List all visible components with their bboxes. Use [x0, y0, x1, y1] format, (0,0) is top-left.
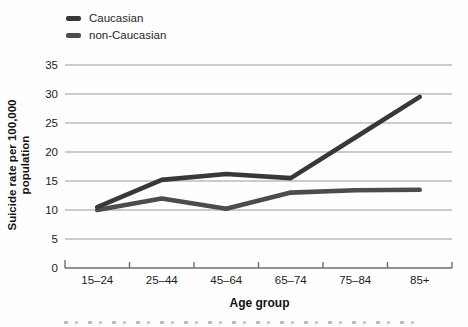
y-axis-title-line2: population [19, 85, 32, 245]
legend-label-caucasian: Caucasian [89, 12, 143, 25]
legend: Caucasian non-Caucasian [66, 12, 166, 42]
x-tick-label: 45–64 [210, 274, 243, 286]
y-tick-label: 25 [45, 117, 58, 129]
x-tick-label: 85+ [410, 274, 430, 286]
y-tick-label: 15 [45, 175, 58, 187]
x-axis-title: Age group [67, 296, 452, 310]
figure: 0510152025303515–2425–4445–6465–7475–848… [0, 0, 468, 327]
x-tick-label: 25–44 [146, 274, 179, 286]
y-tick-label: 0 [52, 262, 58, 274]
y-axis-title: Suicide rate per 100,000 population [6, 85, 32, 245]
series-line-non-caucasian [97, 190, 420, 210]
x-tick-label: 15–24 [81, 274, 114, 286]
legend-swatch-non-caucasian [66, 33, 81, 38]
y-axis-title-line1: Suicide rate per 100,000 [6, 85, 19, 245]
x-tick-label: 75–84 [339, 274, 372, 286]
legend-item-caucasian: Caucasian [66, 12, 166, 25]
y-tick-label: 10 [45, 204, 58, 216]
y-tick-label: 30 [45, 88, 58, 100]
legend-swatch-caucasian [66, 16, 81, 21]
y-tick-label: 20 [45, 146, 58, 158]
legend-label-non-caucasian: non-Caucasian [89, 29, 166, 42]
y-tick-label: 5 [52, 233, 58, 245]
legend-item-non-caucasian: non-Caucasian [66, 29, 166, 42]
cropped-caption-fragment [64, 321, 420, 324]
chart-canvas: 0510152025303515–2425–4445–6465–7475–848… [0, 0, 468, 327]
y-tick-label: 35 [45, 59, 58, 71]
x-tick-label: 65–74 [275, 274, 308, 286]
